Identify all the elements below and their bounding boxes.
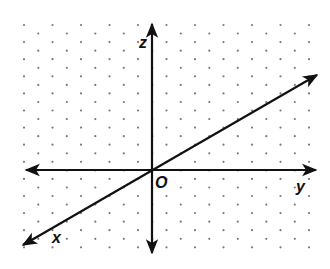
grid-dot [308,195,310,197]
grid-dot [80,58,82,60]
grid-dot [94,152,96,154]
grid-dot [294,135,296,137]
grid-dot [208,221,210,223]
grid-dot [279,41,281,43]
grid-dot [279,144,281,146]
grid-dot [80,41,82,43]
grid-dot [294,118,296,120]
grid-dot [208,152,210,154]
grid-dot [23,195,25,197]
grid-dot [294,221,296,223]
grid-dot [37,101,39,103]
grid-dot [279,127,281,129]
grid-dot [165,75,167,77]
grid-dot [251,195,253,197]
grid-dot [123,32,125,34]
grid-dot [194,41,196,43]
grid-dot [222,212,224,214]
grid-dot [194,75,196,77]
grid-dot [66,152,68,154]
grid-dot [308,144,310,146]
grid-dot [180,32,182,34]
grid-dot [165,58,167,60]
grid-dot [108,178,110,180]
grid-dot [208,118,210,120]
grid-dot [208,32,210,34]
grid-dot [137,24,139,26]
grid-dot [137,75,139,77]
grid-dot [123,238,125,240]
grid-dot [208,67,210,69]
grid-dot [94,135,96,137]
grid-dot [51,92,53,94]
grid-dot [80,127,82,129]
grid-dot [194,246,196,248]
grid-dot [308,246,310,248]
grid-dot [194,178,196,180]
grid-dot [94,186,96,188]
grid-dot [23,24,25,26]
grid-dot [222,178,224,180]
grid-dot [279,109,281,111]
grid-dot [251,229,253,231]
grid-dot [51,246,53,248]
axes-canvas: z y x O [0,0,330,269]
grid-dot [23,75,25,77]
grid-dot [37,67,39,69]
grid-dot [123,84,125,86]
grid-dot [237,101,239,103]
grid-dot [108,212,110,214]
grid-dot [137,92,139,94]
grid-dot [108,127,110,129]
grid-dot [137,161,139,163]
grid-dot [123,221,125,223]
grid-dot [308,229,310,231]
grid-dot [165,212,167,214]
grid-dot [23,127,25,129]
grid-dot [123,152,125,154]
grid-dot [265,67,267,69]
grid-dot [308,41,310,43]
grid-dot [222,195,224,197]
grid-dot [94,50,96,52]
grid-dot [279,92,281,94]
grid-dot [94,238,96,240]
grid-dot [37,204,39,206]
grid-dot [180,118,182,120]
grid-dot [80,109,82,111]
grid-dot [51,75,53,77]
grid-dot [265,84,267,86]
grid-dot [294,101,296,103]
grid-dot [51,58,53,60]
grid-dot [108,24,110,26]
grid-dot [265,50,267,52]
grid-dot [66,50,68,52]
grid-dot [137,127,139,129]
grid-dot [222,24,224,26]
grid-dot [222,92,224,94]
grid-dot [222,144,224,146]
grid-dot [37,84,39,86]
grid-dot [66,101,68,103]
grid-dot [237,152,239,154]
x-axis [23,75,317,245]
grid-dot [37,32,39,34]
grid-dot [108,144,110,146]
grid-dot [23,92,25,94]
grid-dot [237,50,239,52]
grid-dot [94,101,96,103]
grid-dot [165,144,167,146]
grid-dot [279,161,281,163]
grid-dot [123,50,125,52]
grid-dot [308,92,310,94]
grid-dot [51,144,53,146]
grid-dot [165,24,167,26]
grid-dot [37,221,39,223]
grid-dot [37,135,39,137]
grid-dot [237,84,239,86]
grid-dot [251,212,253,214]
grid-dot [165,92,167,94]
grid-dot [108,246,110,248]
grid-dot [279,58,281,60]
grid-dot [123,67,125,69]
